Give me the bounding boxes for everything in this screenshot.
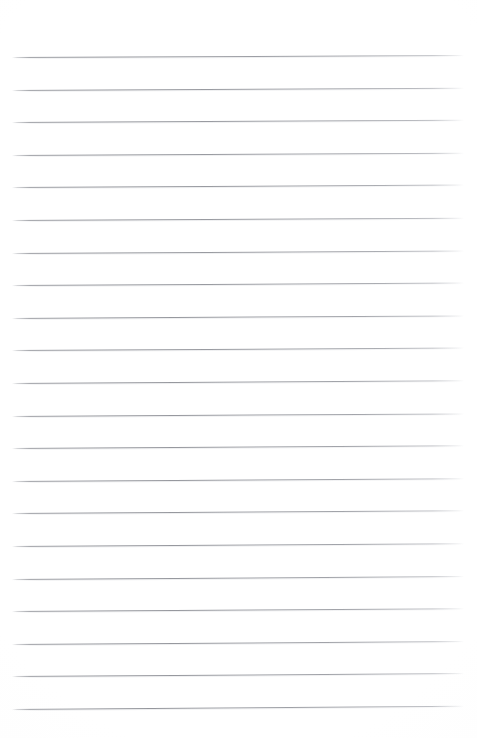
scanned-page — [0, 0, 477, 738]
writing-area[interactable] — [12, 50, 464, 722]
